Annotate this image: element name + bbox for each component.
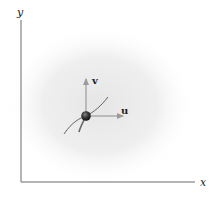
vector-u-label: u <box>121 105 128 116</box>
vector-diagram: y x v u <box>0 0 221 202</box>
x-axis-label: x <box>200 176 207 189</box>
vector-v-label: v <box>91 75 99 86</box>
particle <box>81 111 91 121</box>
background-shade <box>5 25 195 185</box>
y-axis-label: y <box>16 6 24 19</box>
